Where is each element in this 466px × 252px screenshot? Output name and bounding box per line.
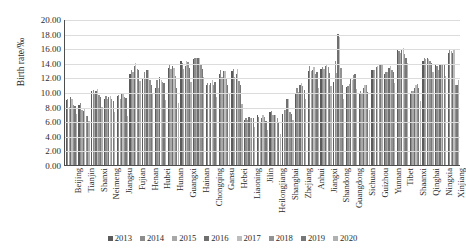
x-axis-tick-label-cell: Tianjin bbox=[77, 168, 90, 230]
x-axis-tick-label-cell: Guangxi bbox=[179, 168, 192, 230]
gridline bbox=[65, 35, 460, 36]
y-axis-tick-labels: 20.0018.0016.0014.0012.0010.008.006.004.… bbox=[22, 20, 61, 166]
x-axis-tick-label-cell: Shaanxi bbox=[409, 168, 422, 230]
legend-label: 2020 bbox=[340, 233, 357, 243]
x-axis-tick-label: Xinjiang bbox=[457, 168, 466, 198]
legend-swatch-icon bbox=[108, 236, 113, 241]
x-axis-tick-label-cell: Yunnan bbox=[384, 168, 397, 230]
legend-item[interactable]: 2016 bbox=[204, 233, 228, 243]
x-axis-tick-label-cell: Chongqing bbox=[205, 168, 218, 230]
legend-label: 2019 bbox=[308, 233, 325, 243]
x-axis-tick-label-cell: Shandong bbox=[332, 168, 345, 230]
legend-swatch-icon bbox=[140, 236, 145, 241]
x-axis-tick-label-cell: Gansu bbox=[217, 168, 230, 230]
gridline bbox=[65, 20, 460, 21]
legend-swatch-icon bbox=[237, 236, 242, 241]
legend-label: 2015 bbox=[179, 233, 196, 243]
x-axis-tick-label-cell: Fujian bbox=[128, 168, 141, 230]
x-axis-tick-label-cell: Hainan bbox=[192, 168, 205, 230]
x-axis-tick-label-cell: Henan bbox=[141, 168, 154, 230]
y-axis-tick-label: 4.00 bbox=[45, 132, 61, 141]
gridline bbox=[65, 137, 460, 138]
x-axis-tick-label-cell: Hubei bbox=[153, 168, 166, 230]
y-axis-tick-label: 20.00 bbox=[41, 16, 61, 25]
legend-swatch-icon bbox=[301, 236, 306, 241]
plot-area bbox=[64, 20, 460, 166]
gridline bbox=[65, 78, 460, 79]
x-axis-tick-label-cell: Xinjiang bbox=[447, 168, 460, 230]
y-axis-tick-label: 6.00 bbox=[45, 118, 61, 127]
y-axis-tick-label: 2.00 bbox=[45, 147, 61, 156]
x-axis-tick-label-cell: Jiangsu bbox=[115, 168, 128, 230]
legend-label: 2016 bbox=[211, 233, 228, 243]
x-axis-tick-label-cell: Jilin bbox=[256, 168, 269, 230]
x-axis-tick-label-cell: Hebei bbox=[230, 168, 243, 230]
legend-swatch-icon bbox=[172, 236, 177, 241]
x-axis-tick-label-cell: Beijing bbox=[64, 168, 77, 230]
legend-swatch-icon bbox=[204, 236, 209, 241]
legend-swatch-icon bbox=[333, 236, 338, 241]
y-axis-tick-label: 12.00 bbox=[41, 74, 61, 83]
x-axis-tick-label-cell: Neimeng bbox=[102, 168, 115, 230]
y-axis-tick-label: 14.00 bbox=[41, 59, 61, 68]
x-axis-tick-labels: BeijingTianjinShanxiNeimengJiangsuFujian… bbox=[64, 168, 460, 230]
legend-item[interactable]: 2014 bbox=[140, 233, 164, 243]
legend-item[interactable]: 2019 bbox=[301, 233, 325, 243]
legend-label: 2014 bbox=[147, 233, 164, 243]
legend-label: 2017 bbox=[244, 233, 261, 243]
y-axis-tick-label: 16.00 bbox=[41, 45, 61, 54]
legend-item[interactable]: 2015 bbox=[172, 233, 196, 243]
legend-item[interactable]: 2017 bbox=[237, 233, 261, 243]
x-axis-tick-label-cell: Guizhou bbox=[371, 168, 384, 230]
x-axis-tick-label-cell: Sichuan bbox=[358, 168, 371, 230]
x-axis-tick-label-cell: Jiangxi bbox=[320, 168, 333, 230]
legend-item[interactable]: 2018 bbox=[269, 233, 293, 243]
gridline bbox=[65, 151, 460, 152]
gridline bbox=[65, 49, 460, 50]
gridline bbox=[65, 93, 460, 94]
x-axis-tick-label-cell: Ningxia bbox=[435, 168, 448, 230]
y-axis-tick-label: 18.00 bbox=[41, 30, 61, 39]
x-axis-tick-label-cell: Tibet bbox=[396, 168, 409, 230]
x-axis-tick-label-cell: Guangdong bbox=[345, 168, 358, 230]
gridline bbox=[65, 64, 460, 65]
y-axis-tick-label: 0.00 bbox=[45, 162, 61, 171]
y-axis-tick-label: 8.00 bbox=[45, 103, 61, 112]
x-axis-tick-label-cell: Shanxi bbox=[90, 168, 103, 230]
chart-legend: 20132014201520162017201820192020 bbox=[0, 233, 465, 243]
gridline bbox=[65, 108, 460, 109]
legend-label: 2018 bbox=[276, 233, 293, 243]
legend-swatch-icon bbox=[269, 236, 274, 241]
x-axis-tick-label-cell: Zhejiang bbox=[294, 168, 307, 230]
legend-item[interactable]: 2020 bbox=[333, 233, 357, 243]
x-axis-tick-label-cell: Anhui bbox=[307, 168, 320, 230]
x-axis-tick-label-cell: Liaoning bbox=[243, 168, 256, 230]
x-axis-tick-label-cell: Qinghai bbox=[422, 168, 435, 230]
x-axis-tick-label-cell: Heilongjiang bbox=[269, 168, 282, 230]
legend-item[interactable]: 2013 bbox=[108, 233, 132, 243]
gridline bbox=[65, 122, 460, 123]
legend-label: 2013 bbox=[115, 233, 132, 243]
x-axis-tick-label-cell: Shanghai bbox=[281, 168, 294, 230]
x-axis-tick-label-cell: Hunan bbox=[166, 168, 179, 230]
y-axis-tick-label: 10.00 bbox=[41, 89, 61, 98]
